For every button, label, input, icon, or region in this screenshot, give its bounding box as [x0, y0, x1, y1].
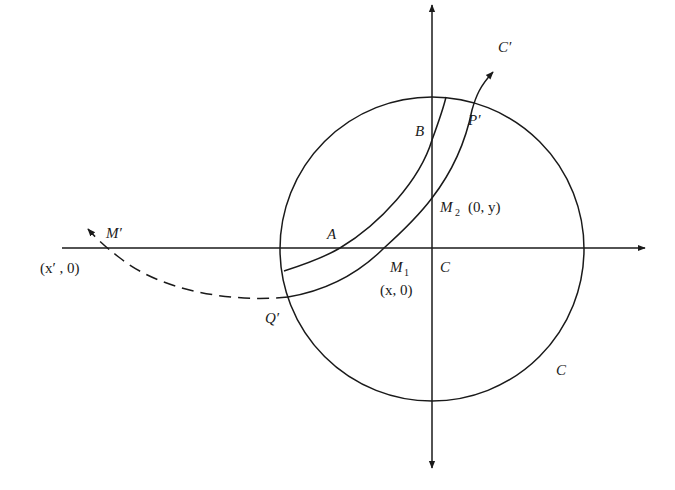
label-a: A — [326, 226, 337, 242]
label-center-c: C — [440, 259, 451, 275]
diagram-canvas: C′ P′ B M 2 (0, y) A M′ (x′ , 0) M 1 (x,… — [0, 0, 675, 490]
label-b: B — [415, 123, 424, 139]
label-m1-coords: (x, 0) — [380, 282, 413, 299]
label-c-prime: C′ — [498, 39, 512, 55]
label-circle-c: C — [556, 362, 567, 378]
label-m1-sub: 1 — [404, 267, 409, 278]
label-m-prime: M′ — [105, 225, 122, 241]
label-x-prime-coords: (x′ , 0) — [40, 260, 80, 277]
label-m2-sub: 2 — [455, 207, 460, 218]
label-p-prime: P′ — [467, 112, 481, 128]
label-m2-coords: (0, y) — [468, 199, 501, 216]
label-m2: M — [439, 199, 454, 215]
label-m1: M — [389, 259, 404, 275]
label-q-prime: Q′ — [265, 310, 280, 326]
